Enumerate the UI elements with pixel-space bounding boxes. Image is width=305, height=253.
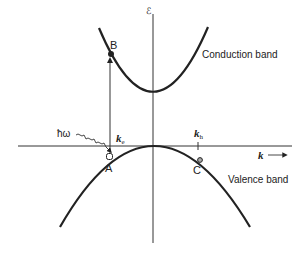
point-c-label: C	[193, 165, 201, 176]
valence-band-curve	[60, 146, 250, 227]
photon-label: ħω	[57, 129, 70, 139]
conduction-band-label: Conduction band	[202, 50, 278, 60]
band-diagram	[0, 0, 305, 253]
energy-axis-label: ℰ	[146, 7, 151, 16]
point-a-vacancy	[107, 154, 113, 160]
k-axis-label: k	[258, 150, 264, 161]
point-a-label: A	[105, 163, 112, 174]
point-c-hole	[198, 158, 203, 163]
photon-wave	[76, 134, 110, 151]
ke-label: ke	[116, 133, 125, 146]
point-b-electron	[108, 51, 114, 57]
point-b-label: B	[110, 40, 117, 51]
valence-band-label: Valence band	[228, 175, 288, 185]
kh-label: kh	[194, 128, 203, 141]
